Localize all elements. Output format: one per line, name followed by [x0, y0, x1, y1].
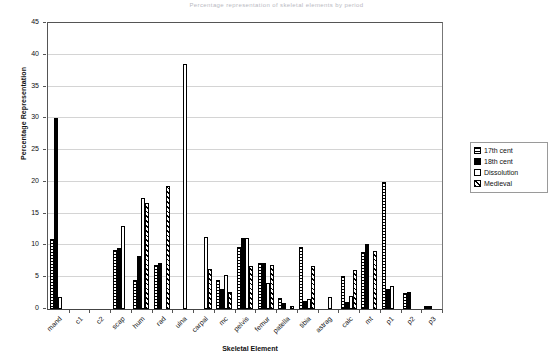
bar — [390, 286, 394, 309]
bar — [249, 266, 253, 309]
x-tick-mark — [235, 310, 236, 313]
bar — [428, 306, 432, 309]
plot-area — [47, 22, 443, 310]
x-tick-mark — [359, 310, 360, 313]
legend-label: Medieval — [484, 180, 512, 188]
y-tick-label: 40 — [13, 50, 39, 57]
legend-item: Medieval — [474, 178, 545, 189]
y-tick-label: 20 — [13, 177, 39, 184]
legend-swatch-solid-black — [474, 158, 481, 165]
y-tick-mark — [43, 149, 46, 150]
y-tick-label: 30 — [13, 113, 39, 120]
y-tick-mark — [43, 181, 46, 182]
legend-swatch-diagonal-hatch — [474, 180, 481, 187]
bar — [183, 64, 187, 309]
bar — [158, 263, 162, 309]
bar — [145, 203, 149, 309]
legend-item: 17th cent — [474, 145, 545, 156]
x-tick-mark — [297, 310, 298, 313]
y-tick-mark — [43, 308, 46, 309]
bar — [299, 247, 303, 309]
y-tick-label: 35 — [13, 82, 39, 89]
y-tick-label: 25 — [13, 145, 39, 152]
bar — [228, 292, 232, 309]
legend-label: 18th cent — [484, 158, 513, 166]
bar-chart: Percentage representation of skeletal el… — [0, 0, 553, 361]
legend-label: 17th cent — [484, 147, 513, 155]
legend-item: Dissolution — [474, 167, 545, 178]
x-tick-mark — [421, 310, 422, 313]
x-tick-mark — [380, 310, 381, 313]
y-tick-label: 10 — [13, 240, 39, 247]
y-tick-mark — [43, 22, 46, 23]
y-tick-mark — [43, 213, 46, 214]
y-tick-label: 5 — [13, 272, 39, 279]
legend-label: Dissolution — [484, 169, 518, 177]
x-tick-mark — [89, 310, 90, 313]
x-tick-mark — [255, 310, 256, 313]
x-tick-mark — [69, 310, 70, 313]
x-tick-mark — [338, 310, 339, 313]
bar — [407, 292, 411, 309]
bar — [328, 297, 332, 309]
bar — [54, 118, 58, 309]
x-tick-mark — [318, 310, 319, 313]
bar — [353, 270, 357, 309]
x-axis-title: Skeletal Element — [150, 345, 350, 352]
bar — [373, 251, 377, 309]
chart-legend: 17th cent18th centDissolutionMedieval — [470, 142, 548, 193]
legend-swatch-horizontal-lines — [474, 147, 481, 154]
bar — [208, 269, 212, 309]
x-tick-mark — [401, 310, 402, 313]
x-tick-mark — [214, 310, 215, 313]
y-tick-mark — [43, 117, 46, 118]
y-tick-label: 15 — [13, 209, 39, 216]
y-tick-label: 0 — [13, 304, 39, 311]
bar — [290, 306, 294, 309]
legend-swatch-white — [474, 169, 481, 176]
chart-title: Percentage representation of skeletal el… — [0, 1, 553, 10]
bar — [121, 226, 125, 309]
x-tick-mark — [152, 310, 153, 313]
x-tick-mark — [110, 310, 111, 313]
bar — [365, 244, 369, 309]
y-tick-label: 45 — [13, 18, 39, 25]
y-tick-mark — [43, 276, 46, 277]
x-tick-mark — [193, 310, 194, 313]
y-tick-mark — [43, 244, 46, 245]
bar — [58, 297, 62, 309]
bar — [282, 303, 286, 309]
y-tick-mark — [43, 54, 46, 55]
x-tick-mark — [276, 310, 277, 313]
bars-layer — [48, 23, 442, 309]
bar — [311, 266, 315, 309]
x-tick-mark — [442, 310, 443, 313]
bar — [270, 265, 274, 309]
bar — [166, 186, 170, 309]
x-tick-mark — [172, 310, 173, 313]
x-tick-mark — [131, 310, 132, 313]
legend-item: 18th cent — [474, 156, 545, 167]
y-tick-mark — [43, 86, 46, 87]
